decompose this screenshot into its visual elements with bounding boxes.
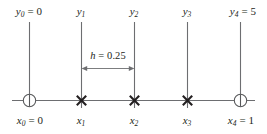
bottom-label-node-0: x0 = 0 — [17, 115, 43, 128]
grid-stencil-diagram: y0 = 0 y1 y2 y3 y4 = 5 h = 0.25 x0 = 0 x… — [0, 0, 267, 134]
spacing-label-equals: = — [96, 50, 107, 61]
top-label-node-1: y1 — [77, 6, 86, 19]
bottom-label-node-3-sub: 3 — [188, 119, 192, 128]
top-label-node-0-suffix: = 0 — [25, 5, 43, 17]
top-label-node-4-suffix: = 5 — [239, 5, 257, 17]
bottom-label-node-1-sub: 1 — [82, 119, 86, 128]
top-label-node-2: y2 — [130, 6, 139, 19]
bottom-label-node-4-suffix: = 1 — [237, 114, 255, 126]
bottom-label-node-1: x1 — [77, 115, 86, 128]
top-label-node-3: y3 — [183, 6, 192, 19]
top-label-node-0: y0 = 0 — [16, 6, 42, 19]
top-label-node-4: y4 = 5 — [230, 6, 256, 19]
spacing-arrow — [82, 66, 135, 71]
bottom-label-node-0-suffix: = 0 — [26, 114, 44, 126]
spacing-label: h = 0.25 — [90, 51, 126, 62]
top-label-node-3-sub: 3 — [188, 10, 192, 19]
bottom-label-node-2: x2 — [130, 115, 139, 128]
top-label-node-1-sub: 1 — [82, 10, 86, 19]
spacing-label-value: 0.25 — [107, 50, 126, 61]
bottom-label-node-4: x4 = 1 — [228, 115, 254, 128]
bottom-label-node-2-sub: 2 — [135, 119, 139, 128]
top-label-node-2-sub: 2 — [135, 10, 139, 19]
bottom-label-node-3: x3 — [183, 115, 192, 128]
